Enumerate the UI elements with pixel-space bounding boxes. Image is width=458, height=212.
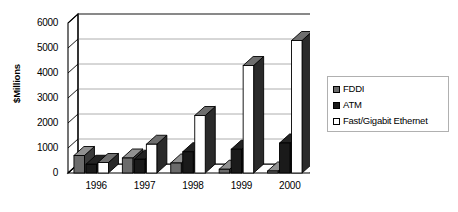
y-axis-tick-label: 0 [20, 168, 58, 178]
y-axis-tick-label: 3000 [20, 93, 58, 103]
legend-item-label: ATM [343, 100, 362, 110]
y-axis-tick-label: 5000 [20, 43, 58, 53]
bar-1997-fastgigabitethernet [146, 135, 167, 173]
y-axis-tick-label: 2000 [20, 118, 58, 128]
y-axis-tick-label: 4000 [20, 68, 58, 78]
legend-item-label: Fast/Gigabit Ethernet [343, 116, 428, 126]
y-axis-tick-label: 1000 [20, 143, 58, 153]
bar-chart: $Millions 0100020003000400050006000 1996… [0, 0, 458, 212]
x-axis-tick-label: 2000 [268, 180, 312, 191]
y-axis-tick-labels: 0100020003000400050006000 [14, 0, 58, 212]
legend-item: Fast/Gigabit Ethernet [333, 113, 444, 129]
plot-area [58, 6, 310, 186]
bar-2000-fastgigabitethernet [292, 32, 310, 174]
x-axis-tick-label: 1997 [123, 180, 167, 191]
x-axis-tick-label: 1998 [171, 180, 215, 191]
y-axis-tick-label: 6000 [20, 18, 58, 28]
legend-item: ATM [333, 97, 444, 113]
bar-1998-fastgigabitethernet [195, 107, 216, 174]
legend-swatch-icon [333, 86, 340, 93]
x-axis-tick-label: 1996 [74, 180, 118, 191]
x-axis-tick-labels: 19961997199819992000 [58, 176, 320, 196]
x-axis-tick-label: 1999 [219, 180, 263, 191]
bar-1999-fastgigabitethernet [243, 57, 264, 174]
legend-swatch-icon [333, 102, 340, 109]
legend-item-label: FDDI [343, 84, 364, 94]
legend-item: FDDI [333, 81, 444, 97]
chart-legend: FDDIATMFast/Gigabit Ethernet [327, 76, 449, 132]
bar-series-group [58, 6, 310, 186]
legend-swatch-icon [333, 118, 340, 125]
